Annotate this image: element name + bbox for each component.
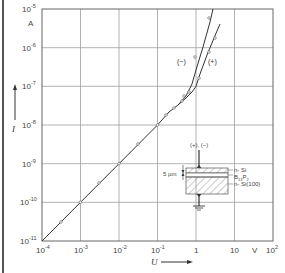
label-minus: (−) bbox=[177, 58, 186, 66]
y-axis-title: I bbox=[11, 84, 17, 134]
svg-text:10-7: 10-7 bbox=[22, 80, 36, 91]
svg-text:102: 102 bbox=[266, 244, 278, 255]
y-unit: A bbox=[28, 19, 34, 28]
svg-text:1: 1 bbox=[194, 246, 199, 255]
y-axis-symbol: I bbox=[11, 124, 16, 134]
inset-layer-nsi: n- Si bbox=[234, 167, 246, 173]
svg-text:10-5: 10-5 bbox=[22, 3, 36, 14]
svg-text:10-10: 10-10 bbox=[20, 196, 37, 207]
iv-chart: (−) (+) 10-5 A 10-6 10-7 10-8 10-9 10-10… bbox=[0, 0, 285, 273]
x-unit: V bbox=[252, 246, 258, 255]
svg-text:10-8: 10-8 bbox=[22, 119, 36, 130]
svg-text:10-6: 10-6 bbox=[22, 42, 36, 53]
x-axis-title: U bbox=[151, 257, 193, 267]
inset-thickness-label: 5 µm bbox=[163, 171, 176, 177]
svg-text:10-3: 10-3 bbox=[74, 244, 88, 255]
svg-text:10-4: 10-4 bbox=[36, 244, 50, 255]
x-axis-symbol: U bbox=[151, 257, 158, 267]
device-inset: (+), (−) 5 µm n- Si B13P2 n- Si(100) bbox=[163, 142, 260, 210]
svg-text:10-9: 10-9 bbox=[22, 158, 36, 169]
x-tick-labels: 10-4 10-3 10-2 10-1 1 10 V 102 bbox=[36, 244, 278, 255]
svg-text:10-2: 10-2 bbox=[113, 244, 127, 255]
label-plus: (+) bbox=[208, 58, 217, 66]
svg-text:10-1: 10-1 bbox=[151, 244, 165, 255]
inset-layer-substrate: n- Si(100) bbox=[234, 181, 260, 187]
inset-electrode-label: (+), (−) bbox=[190, 142, 208, 148]
svg-text:10-11: 10-11 bbox=[20, 235, 36, 246]
y-tick-labels: 10-5 A 10-6 10-7 10-8 10-9 10-10 10-11 bbox=[20, 3, 37, 246]
svg-text:10: 10 bbox=[230, 246, 239, 255]
